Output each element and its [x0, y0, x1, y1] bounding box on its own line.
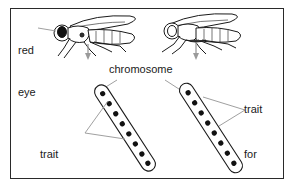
chromosome-red: [92, 82, 158, 173]
label-line: trait: [40, 147, 72, 162]
label-line: red: [18, 43, 36, 57]
label-line: for: [244, 147, 270, 162]
label-trait-red: trait for red eye: [40, 117, 72, 191]
chromosome-white: [177, 81, 245, 176]
label-line: trait: [244, 102, 270, 117]
fly-white-eye: [162, 14, 241, 54]
arrow-down-icon-1: [85, 44, 91, 60]
label-chromosome: chromosome: [109, 62, 173, 76]
label-red-eye: red eye: [18, 15, 36, 113]
label-trait-white: trait for white eye: [244, 72, 270, 191]
fly-red-eye: [54, 16, 136, 58]
label-line: eye: [18, 85, 36, 99]
